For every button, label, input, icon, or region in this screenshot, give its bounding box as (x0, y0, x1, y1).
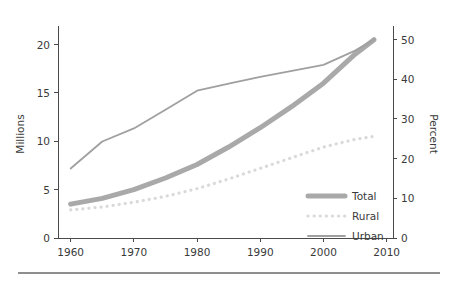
y-axis-right-tick-label: 40 (401, 73, 414, 85)
y-axis-left-tick-label: 5 (43, 184, 50, 196)
legend-label-urban: Urban (352, 230, 384, 242)
legend-group: TotalRuralUrban (308, 190, 384, 242)
y-axis-left-tick-label: 10 (37, 135, 50, 147)
series-line-rural (71, 136, 374, 210)
chart-figure: 0510152001020304050196019701980199020002… (0, 0, 451, 285)
legend-label-total: Total (351, 190, 377, 202)
y-axis-right-tick-label: 0 (401, 232, 408, 244)
axes-group: 0510152001020304050196019701980199020002… (14, 26, 440, 258)
y-axis-right-tick-label: 50 (401, 34, 414, 46)
y-axis-right-tick-label: 30 (401, 113, 414, 125)
x-axis-tick-label: 2000 (310, 246, 337, 258)
x-axis-tick-label: 1990 (247, 246, 274, 258)
x-axis-tick-label: 2010 (373, 246, 400, 258)
x-axis-tick-label: 1970 (120, 246, 147, 258)
y-axis-left-tick-label: 20 (37, 39, 50, 51)
footer-rule (18, 272, 440, 274)
y-axis-right-title: Percent (428, 114, 440, 154)
legend-label-rural: Rural (352, 210, 379, 222)
series-group (71, 40, 374, 210)
line-chart-canvas: 0510152001020304050196019701980199020002… (0, 0, 451, 285)
y-axis-right-tick-label: 20 (401, 153, 414, 165)
series-line-total (71, 40, 374, 204)
x-axis-tick-label: 1960 (57, 246, 84, 258)
y-axis-left-tick-label: 0 (43, 232, 50, 244)
y-axis-left-title: Millions (14, 114, 26, 153)
x-axis-tick-label: 1980 (184, 246, 211, 258)
y-axis-left-tick-label: 15 (37, 87, 50, 99)
y-axis-right-tick-label: 10 (401, 192, 414, 204)
